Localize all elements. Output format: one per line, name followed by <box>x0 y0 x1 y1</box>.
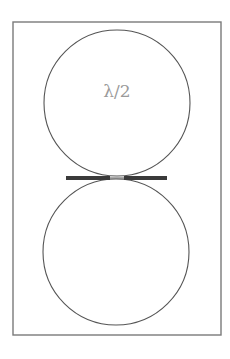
antenna-loop-diagram: λ/2 <box>0 0 230 359</box>
wavelength-label: λ/2 <box>103 81 130 101</box>
lower-loop-circle <box>43 179 189 325</box>
upper-loop-circle <box>44 30 190 176</box>
